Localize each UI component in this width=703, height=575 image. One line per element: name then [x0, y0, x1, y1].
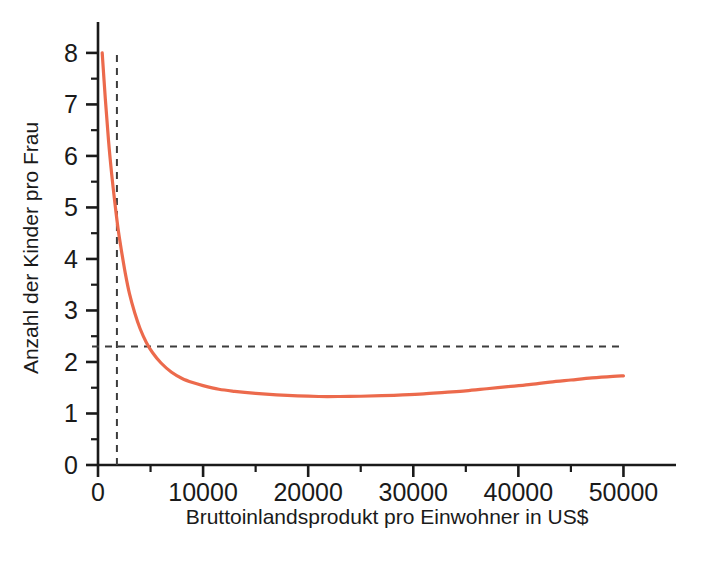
x-axis-ticks: 01000020000300004000050000 [91, 465, 658, 506]
y-axis-ticks: 012345678 [64, 39, 98, 479]
x-tick-label: 30000 [379, 478, 449, 506]
y-axis-title: Anzahl der Kinder pro Frau [19, 122, 42, 374]
chart-figure: 012345678 01000020000300004000050000 Bru… [0, 0, 703, 575]
x-tick-label: 40000 [484, 478, 554, 506]
y-tick-label: 7 [64, 90, 78, 118]
y-tick-label: 6 [64, 142, 78, 170]
annotation-guides [92, 52, 622, 465]
x-tick-label: 50000 [589, 478, 659, 506]
y-tick-label: 8 [64, 39, 78, 67]
chart-plot-area: 012345678 01000020000300004000050000 Bru… [0, 0, 703, 575]
y-tick-label: 0 [64, 451, 78, 479]
y-tick-label: 5 [64, 193, 78, 221]
y-tick-label: 2 [64, 348, 78, 376]
y-tick-label: 4 [64, 245, 78, 273]
data-series-line [102, 53, 623, 397]
x-tick-label: 20000 [273, 478, 343, 506]
y-tick-label: 3 [64, 296, 78, 324]
data-series-group [102, 53, 623, 397]
x-tick-label: 0 [91, 478, 105, 506]
x-axis-title: Bruttoinlandsprodukt pro Einwohner in US… [186, 505, 589, 528]
x-tick-label: 10000 [168, 478, 238, 506]
y-tick-label: 1 [64, 399, 78, 427]
